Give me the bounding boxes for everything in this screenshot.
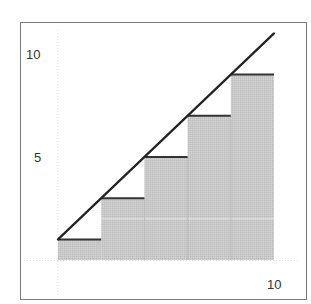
- y-tick-label: 5: [34, 150, 41, 165]
- bar: [144, 157, 187, 260]
- y-tick-label: 10: [26, 47, 40, 62]
- bar: [101, 198, 144, 260]
- bar: [188, 116, 231, 260]
- bar: [58, 239, 101, 260]
- bar: [231, 75, 274, 260]
- step-chart: 510 10: [0, 0, 311, 304]
- x-tick-labels: 10: [267, 277, 281, 292]
- x-tick-label: 10: [267, 277, 281, 292]
